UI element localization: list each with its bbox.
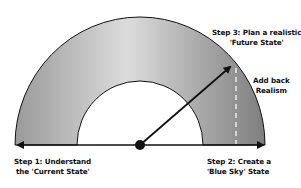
- step1-line2: the 'Current State': [14, 167, 91, 177]
- step2-line1: Step 2: Create a: [207, 157, 271, 167]
- step1-line1: Step 1: Understand: [14, 157, 91, 167]
- realism-label: Add back Realism: [253, 76, 290, 95]
- realism-line2: Realism: [253, 86, 290, 96]
- step3-line1: Step 3: Plan a realistic: [212, 28, 301, 38]
- realism-line1: Add back: [253, 76, 290, 86]
- step2-line2: 'Blue Sky' State: [207, 167, 271, 177]
- center-dot: [135, 140, 145, 150]
- step3-label: Step 3: Plan a realistic 'Future State': [212, 28, 301, 47]
- step1-label: Step 1: Understand the 'Current State': [14, 157, 91, 176]
- step2-label: Step 2: Create a 'Blue Sky' State: [207, 157, 271, 176]
- step3-line2: 'Future State': [212, 38, 301, 48]
